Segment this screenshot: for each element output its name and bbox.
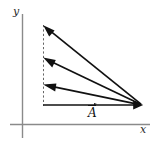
y-axis-label: y — [13, 6, 19, 17]
vector-medium-arrowhead — [43, 58, 56, 68]
vector-diagram-figure: y x A — [0, 0, 155, 141]
vector-shallow-shaft — [54, 87, 141, 105]
vector-a-label-text: A — [88, 107, 97, 119]
vector-diagram-canvas — [0, 0, 155, 141]
vector-a-label: A — [88, 107, 97, 119]
vector-steep-arrowhead — [43, 25, 54, 36]
vector-shallow-arrowhead — [43, 84, 56, 92]
x-axis-label: x — [140, 124, 146, 135]
